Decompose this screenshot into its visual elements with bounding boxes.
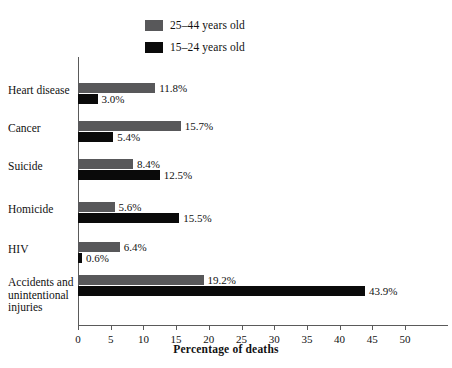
x-tick [340,325,341,330]
x-tick [143,325,144,330]
bar-value-label: 15.7% [185,121,213,131]
legend-swatch-25-44 [145,20,163,31]
x-axis-line [78,325,448,326]
bar [78,83,155,93]
bar [78,202,115,212]
x-tick [307,325,308,330]
x-tick [274,325,275,330]
x-tick [405,325,406,330]
bar [78,132,113,142]
category-label-cancer: Cancer [8,122,74,135]
bar-value-label: 19.2% [208,275,236,285]
bar [78,94,98,104]
bar-value-label: 0.6% [86,253,109,263]
bar-chart: 25–44 years old 15–24 years old Heart di… [0,0,452,368]
bar [78,159,133,169]
category-label-accidents: Accidents and unintentional injuries [8,276,74,314]
bar [78,170,160,180]
legend-item-25-44: 25–44 years old [145,16,365,34]
legend-label-25-44: 25–44 years old [170,19,245,31]
legend-item-15-24: 15–24 years old [145,38,365,56]
bar [78,242,120,252]
x-tick [78,325,79,330]
chart-legend: 25–44 years old 15–24 years old [145,16,365,60]
legend-swatch-15-24 [145,42,163,53]
x-tick [111,325,112,330]
x-tick [242,325,243,330]
legend-label-15-24: 15–24 years old [170,41,245,53]
bar-value-label: 8.4% [137,159,160,169]
bar-value-label: 11.8% [159,83,187,93]
bar [78,213,179,223]
bar-value-label: 5.6% [119,202,142,212]
bar-value-label: 6.4% [124,242,147,252]
x-axis-title: Percentage of deaths [0,343,452,355]
category-label-hiv: HIV [8,243,74,256]
category-label-heart-disease: Heart disease [8,84,74,97]
category-label-suicide: Suicide [8,160,74,173]
bar-value-label: 12.5% [164,170,192,180]
bar [78,286,365,296]
bar-value-label: 5.4% [117,132,140,142]
bar-value-label: 15.5% [183,213,211,223]
x-tick [372,325,373,330]
x-tick [176,325,177,330]
bar [78,275,204,285]
category-label-homicide: Homicide [8,203,74,216]
plot-area: 05101520253035404550 11.8%3.0%15.7%5.4%8… [78,57,405,325]
bar-value-label: 3.0% [102,94,125,104]
bar [78,121,181,131]
x-tick [209,325,210,330]
bar-value-label: 43.9% [369,286,397,296]
bar [78,253,82,263]
